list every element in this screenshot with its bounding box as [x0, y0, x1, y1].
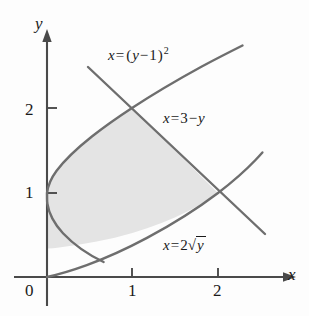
parabola-var: x — [108, 47, 115, 63]
figure-container: y x 0 1 2 1 2 x=(y−1)2 x=3−y x=2√y — [0, 0, 309, 316]
radicand-yvar: y — [196, 236, 206, 253]
parabola-one: 1 — [149, 47, 157, 63]
sqrt-coefficient: 2 — [180, 237, 188, 253]
radical-group: √y — [188, 238, 206, 253]
line-three: 3 — [180, 110, 188, 126]
equation-label-line: x=3−y — [163, 111, 205, 126]
parabola-close-paren: ) — [157, 47, 164, 63]
line-equals: = — [170, 110, 180, 126]
parabola-minus: − — [139, 47, 149, 63]
tick-label-y-2: 2 — [25, 100, 34, 120]
y-axis-arrowhead — [42, 29, 51, 42]
tick-label-x-1: 1 — [128, 281, 137, 301]
line-yvar: y — [198, 110, 205, 126]
line-minus: − — [188, 110, 198, 126]
parabola-equals: = — [115, 47, 125, 63]
sqrt-equals: = — [170, 237, 180, 253]
tick-label-x-2: 2 — [213, 281, 222, 301]
equation-label-parabola: x=(y−1)2 — [108, 46, 169, 63]
parabola-yvar: y — [132, 47, 139, 63]
tick-label-origin: 0 — [25, 281, 34, 301]
parabola-exponent: 2 — [164, 45, 169, 56]
x-axis-label: x — [288, 265, 296, 285]
tick-label-y-1: 1 — [25, 183, 34, 203]
line-var: x — [163, 110, 170, 126]
radical-sign: √ — [188, 237, 196, 253]
y-axis-label: y — [35, 14, 43, 34]
equation-label-sqrt: x=2√y — [163, 238, 206, 253]
sqrt-var: x — [163, 237, 170, 253]
